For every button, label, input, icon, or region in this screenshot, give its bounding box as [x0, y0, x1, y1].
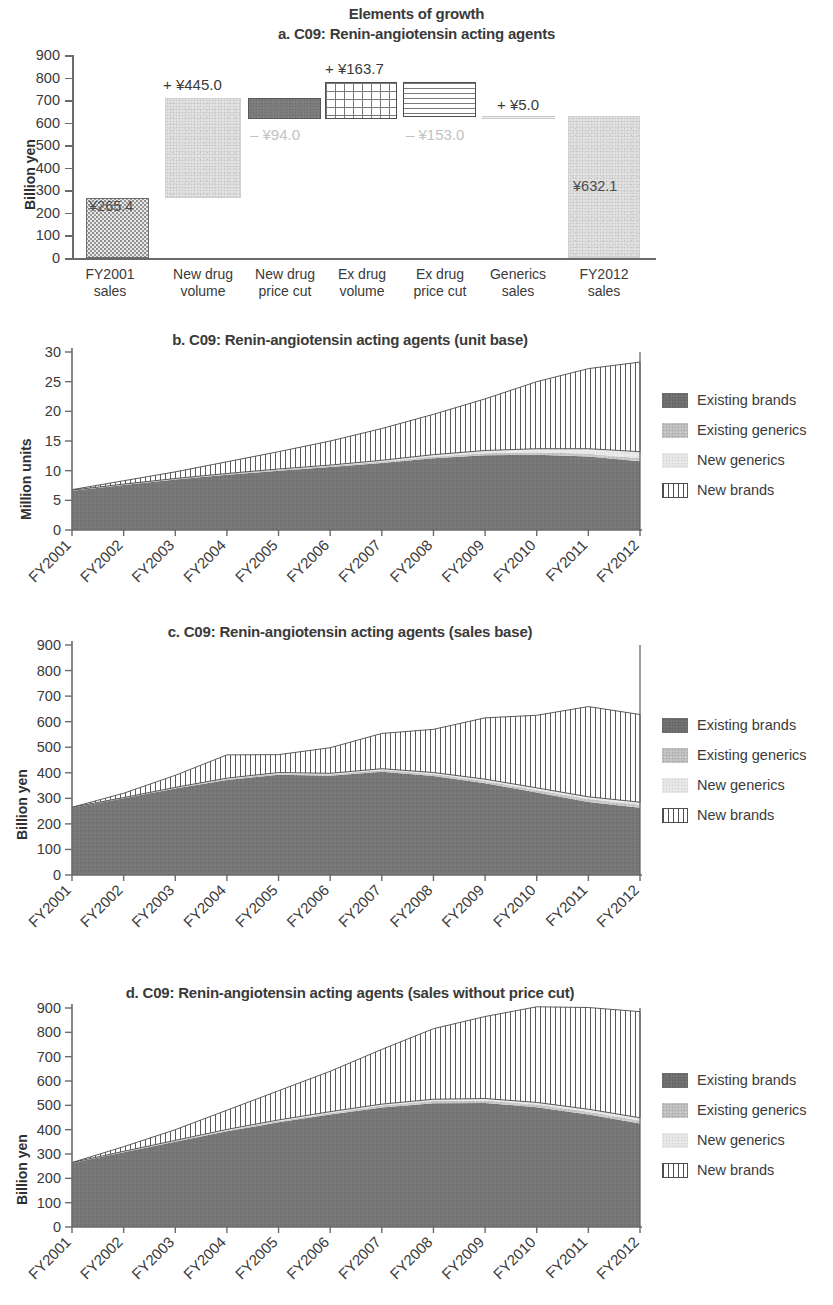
legend-item-existing-brands[interactable]: Existing brands [662, 1065, 807, 1095]
existing-brands-swatch [662, 393, 688, 408]
waterfall-value-fy2012-sales: ¥632.1 [573, 178, 617, 194]
panel-d-plot: 0100200300400500600700800900FY2001FY2002… [0, 940, 700, 1305]
x-tick-line2: price cut [240, 283, 330, 300]
panel-b: b. C09: Renin-angiotensin acting agents … [0, 320, 833, 610]
x-tick-label: FY2010 [490, 881, 539, 930]
x-tick-line1: New drug [160, 266, 246, 283]
x-tick-label: FY2011 [542, 881, 590, 929]
y-tick [65, 168, 72, 170]
legend-item-new-generics[interactable]: New generics [662, 1125, 807, 1155]
waterfall-bar-ex-drug-volume[interactable] [325, 82, 397, 119]
x-tick-label: FY2011 [542, 536, 590, 584]
waterfall-bar-ex-drug-price-cut[interactable] [403, 82, 476, 117]
new-generics-swatch [662, 778, 688, 793]
legend-item-existing-brands[interactable]: Existing brands [662, 385, 807, 415]
y-tick-label: 300 [37, 790, 61, 806]
legend-label: Existing generics [697, 747, 807, 763]
y-tick [65, 55, 72, 57]
legend-item-new-brands[interactable]: New brands [662, 1155, 807, 1185]
x-tick-label: FY2009 [438, 1233, 487, 1282]
waterfall-bar-new-drug-price-cut[interactable] [248, 98, 321, 119]
x-tick-label: FY2008 [386, 881, 435, 930]
x-tick-label: FY2002 [77, 536, 126, 585]
x-tick-label-generics-sales: Generics sales [478, 266, 558, 300]
waterfall-value-generics-sales: + ¥5.0 [497, 96, 539, 113]
waterfall-bar-generics-sales[interactable] [482, 116, 555, 119]
y-tick-label: 100 [37, 1195, 61, 1211]
existing-generics-swatch [662, 423, 688, 438]
legend-item-existing-generics[interactable]: Existing generics [662, 415, 807, 445]
y-tick-label: 700 [37, 688, 61, 704]
panel-c-svg: 0100200300400500600700800900FY2001FY2002… [0, 610, 700, 940]
waterfall-value-new-drug-volume: + ¥445.0 [163, 76, 222, 93]
y-tick-label: 15 [45, 433, 61, 449]
waterfall-bar-new-drug-volume[interactable] [165, 98, 241, 198]
x-tick-label-new-drug-price-cut: New drug price cut [240, 266, 330, 300]
x-tick-label: FY2007 [335, 1233, 384, 1282]
panel-a-x-axis [72, 258, 656, 260]
legend-item-existing-generics[interactable]: Existing generics [662, 740, 807, 770]
panel-b-svg: 051015202530FY2001FY2002FY2003FY2004FY20… [0, 320, 700, 610]
panel-d-svg: 0100200300400500600700800900FY2001FY2002… [0, 940, 700, 1305]
x-tick-label: FY2002 [77, 1233, 126, 1282]
y-tick-label: 500 [20, 138, 60, 152]
x-tick-label: FY2003 [128, 1233, 177, 1282]
y-tick-label: 0 [20, 251, 60, 265]
x-tick-label: FY2007 [335, 881, 384, 930]
x-tick-line1: Ex drug [322, 266, 402, 283]
y-tick-label: 800 [20, 71, 60, 85]
x-tick-label: FY2004 [180, 881, 229, 930]
x-tick-label: FY2012 [593, 1233, 642, 1282]
legend-label: New generics [697, 777, 785, 793]
x-tick-label: FY2003 [128, 536, 177, 585]
y-tick-label: 600 [37, 1073, 61, 1089]
y-tick-label: 700 [20, 93, 60, 107]
legend-label: Existing brands [697, 717, 796, 733]
legend-label: New brands [697, 482, 774, 498]
x-tick-line2: volume [322, 283, 402, 300]
y-tick-label: 30 [45, 344, 61, 360]
y-tick-label: 200 [20, 206, 60, 220]
y-tick [65, 100, 72, 102]
new-generics-swatch [662, 1133, 688, 1148]
y-tick [65, 123, 72, 125]
legend-label: New brands [697, 807, 774, 823]
panel-d: d. C09: Renin-angiotensin acting agents … [0, 940, 833, 1305]
x-tick-label: FY2012 [593, 536, 642, 585]
y-tick-label: 0 [53, 1219, 61, 1235]
x-tick-label: FY2002 [77, 881, 126, 930]
legend-label: Existing brands [697, 392, 796, 408]
waterfall-value-ex-drug-price-cut: – ¥153.0 [406, 126, 464, 143]
legend-item-new-brands[interactable]: New brands [662, 475, 807, 505]
x-tick-label: FY2008 [386, 1233, 435, 1282]
y-tick [65, 190, 72, 192]
legend-label: Existing brands [697, 1072, 796, 1088]
x-tick-line1: FY2001 [70, 266, 150, 283]
legend-item-existing-generics[interactable]: Existing generics [662, 1095, 807, 1125]
y-tick-label: 10 [45, 463, 61, 479]
figure-suptitle: Elements of growth [0, 4, 833, 24]
legend-label: New generics [697, 452, 785, 468]
y-tick-label: 500 [37, 1097, 61, 1113]
existing-generics-swatch [662, 1103, 688, 1118]
new-brands-swatch [662, 483, 688, 498]
y-tick-label: 400 [37, 765, 61, 781]
panel-a-title: a. C09: Renin-angiotensin acting agents [0, 24, 833, 44]
x-tick-label-ex-drug-price-cut: Ex drug price cut [398, 266, 482, 300]
legend-item-new-brands[interactable]: New brands [662, 800, 807, 830]
y-tick-label: 200 [37, 1170, 61, 1186]
y-tick-label: 0 [53, 867, 61, 883]
x-tick-label: FY2008 [386, 536, 435, 585]
y-tick-label: 900 [20, 48, 60, 62]
legend-item-new-generics[interactable]: New generics [662, 445, 807, 475]
y-tick [65, 213, 72, 215]
y-tick-label: 900 [37, 637, 61, 653]
legend-item-new-generics[interactable]: New generics [662, 770, 807, 800]
x-tick-label: FY2010 [490, 536, 539, 585]
x-tick-label-ex-drug-volume: Ex drug volume [322, 266, 402, 300]
legend-label: New brands [697, 1162, 774, 1178]
x-tick-label: FY2009 [438, 881, 487, 930]
panel-d-legend: Existing brandsExisting genericsNew gene… [662, 1065, 807, 1185]
legend-item-existing-brands[interactable]: Existing brands [662, 710, 807, 740]
new-brands-swatch [662, 808, 688, 823]
